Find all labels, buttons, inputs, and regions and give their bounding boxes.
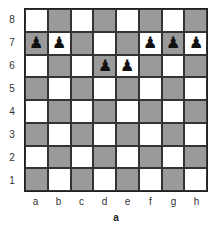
pawn-icon: ♟ bbox=[98, 58, 112, 74]
file-label: h bbox=[185, 196, 208, 207]
pawn-icon: ♟ bbox=[52, 35, 66, 51]
rank-label: 6 bbox=[6, 60, 18, 71]
rank-label: 5 bbox=[6, 83, 18, 94]
file-label: a bbox=[24, 196, 47, 207]
square-e4 bbox=[116, 100, 139, 123]
square-b3 bbox=[48, 123, 71, 146]
square-a2 bbox=[25, 146, 48, 169]
square-g1 bbox=[162, 168, 185, 191]
file-label: g bbox=[162, 196, 185, 207]
square-d3 bbox=[93, 123, 116, 146]
square-a8 bbox=[25, 9, 48, 32]
square-c3 bbox=[71, 123, 94, 146]
square-b2 bbox=[48, 146, 71, 169]
square-a3 bbox=[25, 123, 48, 146]
square-c7 bbox=[71, 32, 94, 55]
square-f2 bbox=[139, 146, 162, 169]
square-c5 bbox=[71, 77, 94, 100]
square-a1 bbox=[25, 168, 48, 191]
rank-label: 4 bbox=[6, 106, 18, 117]
square-d4 bbox=[93, 100, 116, 123]
square-e6: ♟ bbox=[116, 55, 139, 78]
file-label: d bbox=[93, 196, 116, 207]
file-label: b bbox=[47, 196, 70, 207]
square-g7: ♟ bbox=[162, 32, 185, 55]
rank-label: 1 bbox=[6, 175, 18, 186]
square-b1 bbox=[48, 168, 71, 191]
square-b5 bbox=[48, 77, 71, 100]
square-b7: ♟ bbox=[48, 32, 71, 55]
square-g8 bbox=[162, 9, 185, 32]
rank-label: 3 bbox=[6, 129, 18, 140]
file-label: c bbox=[70, 196, 93, 207]
square-h2 bbox=[184, 146, 207, 169]
square-g2 bbox=[162, 146, 185, 169]
square-d5 bbox=[93, 77, 116, 100]
square-g5 bbox=[162, 77, 185, 100]
square-e8 bbox=[116, 9, 139, 32]
file-label: e bbox=[116, 196, 139, 207]
square-a6 bbox=[25, 55, 48, 78]
square-h7: ♟ bbox=[184, 32, 207, 55]
square-b8 bbox=[48, 9, 71, 32]
square-h8 bbox=[184, 9, 207, 32]
square-a7: ♟ bbox=[25, 32, 48, 55]
square-a4 bbox=[25, 100, 48, 123]
pawn-icon: ♟ bbox=[189, 35, 203, 51]
pawn-icon: ♟ bbox=[166, 35, 180, 51]
square-e7 bbox=[116, 32, 139, 55]
rank-label: 2 bbox=[6, 152, 18, 163]
square-e2 bbox=[116, 146, 139, 169]
diagram-caption: a bbox=[0, 212, 218, 223]
file-label: f bbox=[139, 196, 162, 207]
square-c1 bbox=[71, 168, 94, 191]
square-h6 bbox=[184, 55, 207, 78]
square-f5 bbox=[139, 77, 162, 100]
square-h1 bbox=[184, 168, 207, 191]
pawn-icon: ♟ bbox=[120, 58, 134, 74]
square-g6 bbox=[162, 55, 185, 78]
square-h4 bbox=[184, 100, 207, 123]
square-d6: ♟ bbox=[93, 55, 116, 78]
square-c2 bbox=[71, 146, 94, 169]
square-f6 bbox=[139, 55, 162, 78]
square-e5 bbox=[116, 77, 139, 100]
square-f4 bbox=[139, 100, 162, 123]
square-e3 bbox=[116, 123, 139, 146]
square-b4 bbox=[48, 100, 71, 123]
square-g4 bbox=[162, 100, 185, 123]
square-b6 bbox=[48, 55, 71, 78]
chess-board: ♟♟♟♟♟♟♟ bbox=[24, 8, 208, 192]
square-f7: ♟ bbox=[139, 32, 162, 55]
square-d2 bbox=[93, 146, 116, 169]
square-h5 bbox=[184, 77, 207, 100]
square-g3 bbox=[162, 123, 185, 146]
square-f1 bbox=[139, 168, 162, 191]
pawn-icon: ♟ bbox=[143, 35, 157, 51]
square-a5 bbox=[25, 77, 48, 100]
square-d7 bbox=[93, 32, 116, 55]
square-e1 bbox=[116, 168, 139, 191]
pawn-icon: ♟ bbox=[29, 35, 43, 51]
square-f8 bbox=[139, 9, 162, 32]
square-c8 bbox=[71, 9, 94, 32]
square-c4 bbox=[71, 100, 94, 123]
square-h3 bbox=[184, 123, 207, 146]
rank-label: 8 bbox=[6, 14, 18, 25]
square-c6 bbox=[71, 55, 94, 78]
rank-label: 7 bbox=[6, 37, 18, 48]
square-d1 bbox=[93, 168, 116, 191]
square-f3 bbox=[139, 123, 162, 146]
square-d8 bbox=[93, 9, 116, 32]
